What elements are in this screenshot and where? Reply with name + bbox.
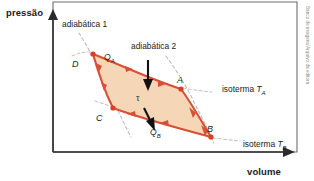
- heat-out-label: QB: [150, 128, 161, 139]
- isotherm-ta-text: isoterma: [222, 84, 256, 94]
- isotherm-tb-text: isoterma: [243, 139, 277, 149]
- state-label-a: A: [177, 76, 183, 85]
- work-label: τ: [136, 94, 140, 103]
- state-label-d: D: [72, 60, 79, 69]
- state-label-b: B: [207, 125, 213, 134]
- image-credit: Banco de imagens/Arquivo da editora: [305, 6, 310, 84]
- figure-container: pressão volume adiabática 1 adiabática 2…: [0, 0, 314, 181]
- adiabatic-1-label: adiabática 1: [62, 20, 107, 28]
- state-node-c: [110, 105, 115, 110]
- adiabatic-2-label: adiabática 2: [131, 42, 176, 50]
- state-label-c: C: [96, 114, 103, 123]
- isotherm-tb-label: isoterma TB: [243, 140, 287, 151]
- isotherm-ta-label: isoterma TA: [222, 85, 266, 96]
- isotherm-ta-extension-left: [72, 52, 90, 56]
- heat-out-symbol: Q: [150, 127, 157, 137]
- y-axis-label: pressão: [6, 8, 43, 18]
- state-node-d: [90, 51, 95, 56]
- heat-in-symbol: Q: [104, 52, 111, 62]
- state-node-a: [178, 86, 183, 91]
- y-axis: [48, 9, 58, 152]
- state-node-b: [208, 134, 213, 139]
- isotherm-ta-subscript: A: [262, 90, 266, 96]
- isotherm-tb-subscript: B: [283, 145, 287, 151]
- heat-in-subscript: A: [111, 58, 115, 64]
- pv-diagram-svg: [0, 0, 314, 181]
- x-axis-label: volume: [247, 167, 281, 177]
- heat-in-label: QA: [104, 53, 115, 64]
- isotherm-tb-extension: [213, 138, 240, 141]
- heat-out-subscript: B: [157, 133, 161, 139]
